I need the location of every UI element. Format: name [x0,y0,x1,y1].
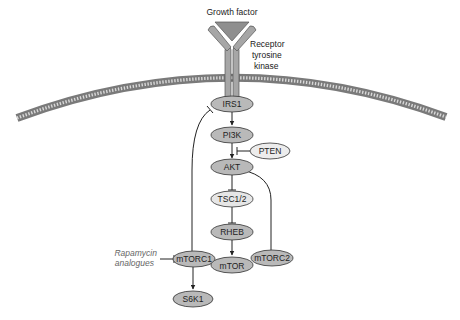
svg-text:mTORC1: mTORC1 [176,254,212,264]
node-pten: PTEN [250,143,290,159]
receptor-tyrosine-kinase [208,22,256,99]
node-tsc: TSC1/2 [211,191,253,207]
node-mtorc2: mTORC2 [251,250,293,266]
receptor-label-line2: tyrosine [252,50,282,60]
svg-text:RHEB: RHEB [220,227,244,237]
node-s6k1: S6K1 [173,291,213,307]
receptor-label-line3: kinase [254,61,279,71]
node-mtorc1: mTORC1 [173,251,215,267]
node-rheb: RHEB [211,224,253,240]
svg-text:AKT: AKT [224,162,241,172]
rapamycin-label-line1: Rapamycin [114,248,157,258]
svg-text:PTEN: PTEN [259,146,282,156]
svg-text:mTOR: mTOR [220,261,245,271]
svg-text:S6K1: S6K1 [183,294,204,304]
node-pi3k: PI3K [211,127,253,143]
svg-text:TSC1/2: TSC1/2 [218,194,247,204]
svg-text:mTORC2: mTORC2 [254,253,290,263]
svg-text:IRS1: IRS1 [223,99,242,109]
node-akt: AKT [211,159,253,175]
svg-text:PI3K: PI3K [223,130,242,140]
node-mtor: mTOR [211,257,253,273]
rapamycin-label-line2: analogues [115,258,155,268]
receptor-label-line1: Receptor [250,39,285,49]
growth-factor-label: Growth factor [206,7,257,17]
node-irs1: IRS1 [211,96,253,112]
edge-mtorc1-irs1-feedback [192,110,210,251]
pathway-diagram: Growth factor Receptor tyrosine kinase I… [0,0,460,320]
